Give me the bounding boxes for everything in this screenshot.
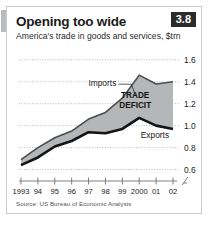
y-axis-tick-label: 1.2 bbox=[184, 99, 196, 109]
chart-card: Opening too wide America's trade in good… bbox=[6, 6, 202, 214]
y-axis-tick-label: 0.6 bbox=[184, 165, 196, 175]
x-axis-tick-label: 97 bbox=[84, 187, 92, 196]
chart-source: Source: US Bureau of Economic Analysis bbox=[16, 200, 131, 207]
trade-deficit-band bbox=[21, 75, 173, 165]
x-axis-group bbox=[19, 177, 188, 185]
trade-deficit-label-line2: DEFICIT bbox=[119, 101, 151, 110]
y-axis-tick-label: 1.6 bbox=[184, 55, 196, 65]
imports-label: Imports bbox=[88, 78, 116, 88]
chart-title: Opening too wide bbox=[16, 14, 195, 29]
x-axis-tick-label: 94 bbox=[34, 187, 42, 196]
x-axis-labels: 199394959697989920000102 bbox=[7, 187, 203, 199]
x-axis-tick-label: 2000 bbox=[131, 187, 148, 196]
chart-svg: 0.60.81.01.21.41.6 ImportsExportsTRADEDE… bbox=[7, 45, 203, 195]
x-axis-tick-label: 1993 bbox=[13, 187, 30, 196]
x-axis-tick-label: 99 bbox=[118, 187, 126, 196]
chart-subtitle: America's trade in goods and services, $… bbox=[16, 31, 195, 42]
y-axis-tick-label: 1.4 bbox=[184, 77, 196, 87]
chart-plot-area: 0.60.81.01.21.41.6 ImportsExportsTRADEDE… bbox=[7, 45, 203, 195]
x-axis-tick-label: 01 bbox=[152, 187, 160, 196]
y-axis-labels-group: 0.60.81.01.21.41.6 bbox=[184, 55, 196, 175]
x-axis-tick-label: 98 bbox=[101, 187, 109, 196]
x-axis-tick-label: 96 bbox=[67, 187, 75, 196]
trade-deficit-area bbox=[21, 75, 173, 165]
y-axis-tick-label: 0.8 bbox=[184, 143, 196, 153]
figure-number-badge: 3.8 bbox=[171, 12, 196, 27]
x-axis-tick-label: 02 bbox=[169, 187, 177, 196]
axis-break-icon bbox=[182, 177, 188, 185]
chart-header: Opening too wide America's trade in good… bbox=[16, 14, 195, 42]
trade-deficit-label-line1: TRADE bbox=[121, 91, 150, 100]
exports-label: Exports bbox=[141, 130, 169, 140]
y-axis-tick-label: 1.0 bbox=[184, 121, 196, 131]
x-axis-tick-label: 95 bbox=[51, 187, 59, 196]
